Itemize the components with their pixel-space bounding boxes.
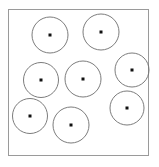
center-dot-top-left: [49, 34, 52, 37]
center-dot-bottom-left: [29, 115, 32, 118]
center-dot-bottom-center: [70, 124, 73, 127]
diagram-canvas: [0, 0, 159, 167]
center-dot-middle-center: [82, 78, 85, 81]
circle-packing-figure: [0, 0, 159, 167]
center-dot-middle-left: [40, 79, 43, 82]
center-dot-bottom-right: [126, 107, 129, 110]
center-dot-top-right: [100, 31, 103, 34]
center-dot-middle-right: [131, 69, 134, 72]
